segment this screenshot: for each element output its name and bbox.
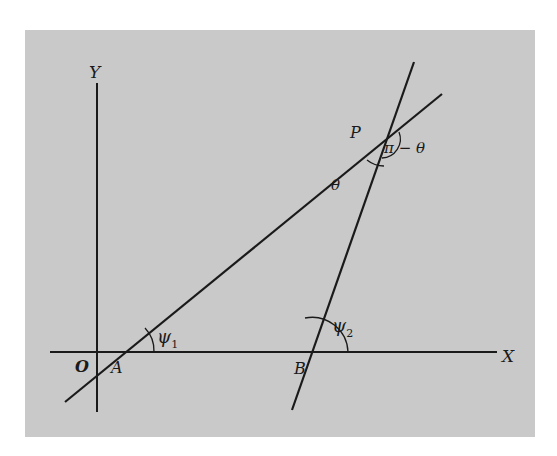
point-a-label: A — [109, 358, 123, 377]
diagram-panel — [25, 30, 535, 437]
point-b-label: B — [293, 359, 306, 378]
point-p-label: P — [349, 123, 361, 142]
diagram-canvas: Y X O A B P ψ1 ψ2 θ π − θ — [0, 0, 557, 456]
origin-label: O — [75, 357, 89, 376]
angle-label-pi-minus-theta: π − θ — [383, 139, 425, 157]
x-axis-label: X — [500, 346, 515, 366]
y-axis-label: Y — [89, 62, 102, 82]
angle-label-theta: θ — [331, 176, 340, 194]
